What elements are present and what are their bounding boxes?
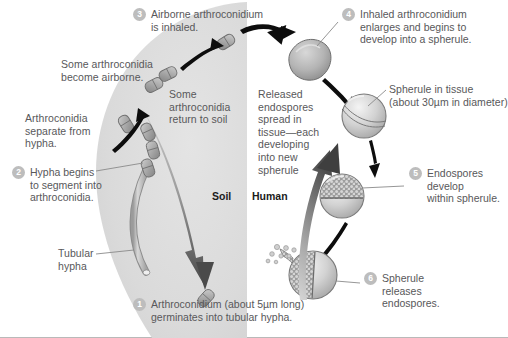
step-2-label: Hypha begins to segment into arthroconid… xyxy=(30,166,102,204)
enlarging-arthroconidium-shape xyxy=(289,39,331,80)
annotation-arthroconidia-separate-from-hypha: Arthroconidia separate from hypha. xyxy=(25,112,115,150)
step-6-badge: 6 xyxy=(364,272,377,285)
step-3: 3 Airborne arthroconidium is inhaled. xyxy=(133,8,278,33)
soil-region xyxy=(96,2,247,338)
step-1: 1 Arthroconidium (about 5µm long) germin… xyxy=(133,298,363,323)
zone-label-human: Human xyxy=(252,190,288,202)
step-3-label: Airborne arthroconidium is inhaled. xyxy=(151,8,263,33)
annotation-tubular-hypha: Tubular hypha xyxy=(58,247,118,272)
step-5-label: Endospores develop within spherule. xyxy=(427,167,500,205)
step-1-badge: 1 xyxy=(133,298,146,311)
annotation-released-endospores-spread: Released endospores spread in tissue—eac… xyxy=(258,88,320,176)
annotation-some-arthroconidia-become-airborne: Some arthroconidia become airborne. xyxy=(61,58,191,83)
step-4-badge: 4 xyxy=(342,8,355,21)
step-4-label: Inhaled arthroconidium enlarges and begi… xyxy=(360,8,472,46)
arrow-spherule-to-endospores xyxy=(369,140,380,178)
step-6: 6 Spherule releases endospores. xyxy=(364,272,459,310)
coccidioides-life-cycle-diagram: 3 Airborne arthroconidium is inhaled. 4 … xyxy=(0,0,508,338)
step-6-label: Spherule releases endospores. xyxy=(382,272,440,310)
step-3-badge: 3 xyxy=(133,8,146,21)
zone-label-soil: Soil xyxy=(212,190,231,202)
endospore-developing-spherule-shape xyxy=(319,173,365,218)
annotation-some-arthroconidia-return-to-soil: Some arthroconidia return to soil xyxy=(169,88,249,126)
spherule-in-tissue-shape xyxy=(342,94,386,138)
step-5: 5 Endospores develop within spherule. xyxy=(409,167,504,205)
step-1-label: Arthroconidium (about 5µm long) germinat… xyxy=(151,298,304,323)
step-4: 4 Inhaled arthroconidium enlarges and be… xyxy=(342,8,502,46)
step-2: 2 Hypha begins to segment into arthrocon… xyxy=(12,166,107,204)
step-5-badge: 5 xyxy=(409,167,422,180)
annotation-spherule-in-tissue: Spherule in tissue (about 30µm in diamet… xyxy=(389,83,508,108)
step-2-badge: 2 xyxy=(12,166,25,179)
